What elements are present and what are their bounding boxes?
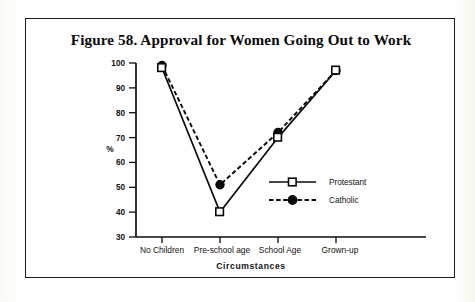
y-tick-label: 40 [116,208,126,217]
series-markers-protestant [158,64,340,216]
y-axis-title: % [106,144,114,154]
x-axis-title: Circumstances [216,261,285,271]
y-tick-label: 50 [116,183,126,192]
figure-page: Figure 58. Approval for Women Going Out … [0,0,475,302]
x-tick-label: School Age [259,245,302,255]
y-tick-label: 80 [116,109,126,118]
plot-area: 100 90 80 70 60 50 40 30 % [26,19,456,279]
y-tick-label: 60 [116,158,126,167]
legend-marker-catholic [288,196,297,205]
y-tick-label: 100 [111,59,125,68]
legend-label-protestant: Protestant [329,178,367,187]
y-axis-ticks: 100 90 80 70 60 50 40 30 [111,59,136,242]
legend-marker-protestant [289,178,297,186]
figure-frame: Figure 58. Approval for Women Going Out … [25,18,455,278]
series-line-protestant [162,68,336,212]
chart-legend: Protestant Catholic [269,178,367,205]
y-tick-label: 30 [116,233,126,242]
y-tick-label: 70 [116,134,126,143]
legend-label-catholic: Catholic [329,196,359,205]
x-tick-label: No Children [140,245,185,255]
x-axis-ticks [162,237,336,243]
series-line-catholic [162,66,336,185]
y-tick-label: 90 [116,84,126,93]
line-chart-svg: 100 90 80 70 60 50 40 30 % [26,19,456,279]
x-tick-label: Pre-school age [194,245,251,255]
x-tick-label: Grown-up [322,245,359,255]
